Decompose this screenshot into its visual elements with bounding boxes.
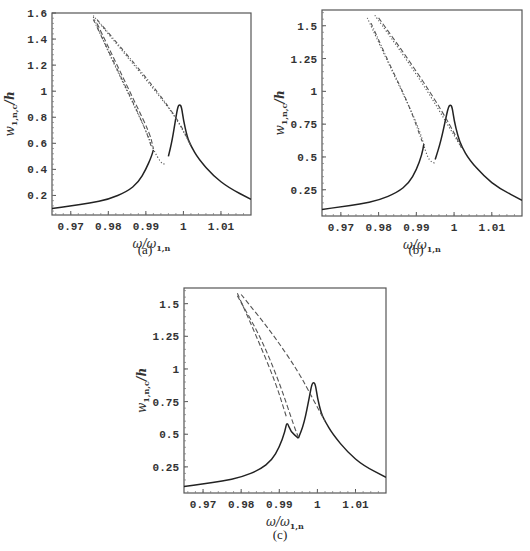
x-tick-label: 0.97	[190, 499, 216, 511]
y-axis-label: w1,n,c/h	[135, 368, 151, 413]
chart-c: 0.970.980.9911.010.250.50.7511.251.5ω/ω1…	[0, 0, 530, 551]
y-tick-label: 0.25	[153, 462, 180, 474]
series-solid	[184, 424, 298, 487]
y-tick-label: 1.5	[159, 299, 179, 311]
x-tick-label: 0.98	[228, 499, 255, 511]
series-dashed	[237, 293, 287, 418]
series-dashed	[237, 296, 298, 437]
x-tick-label: 1.01	[342, 499, 369, 511]
y-tick-label: 1	[172, 364, 179, 376]
x-tick-label: 1	[314, 499, 321, 511]
x-tick-label: 0.99	[266, 499, 292, 511]
plot-frame	[184, 288, 386, 493]
figure-panel-c: 0.970.980.9911.010.250.50.7511.251.5ω/ω1…	[0, 0, 530, 551]
y-tick-label: 0.5	[159, 429, 179, 441]
series-dashed	[241, 295, 325, 422]
y-tick-label: 1.25	[153, 331, 180, 343]
caption-c: (c)	[260, 527, 300, 543]
y-tick-label: 0.75	[153, 397, 180, 409]
